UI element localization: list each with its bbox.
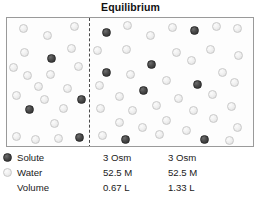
- right-solute-particle: [102, 68, 111, 77]
- right-water-particle: [95, 81, 104, 90]
- right-solute-particle: [190, 26, 199, 35]
- left-water-particle: [67, 44, 76, 53]
- right-solute-particle: [121, 135, 130, 144]
- figure-title: Equilibrium: [0, 1, 261, 13]
- right-water-particle: [182, 126, 191, 135]
- right-water-particle: [162, 116, 171, 125]
- left-solute-particle: [25, 105, 34, 114]
- right-water-particle: [206, 45, 215, 54]
- volume-left-value: 0.67 L: [103, 180, 130, 195]
- left-water-particle: [43, 31, 52, 40]
- left-solute-particle: [77, 95, 86, 104]
- left-water-particle: [46, 70, 55, 79]
- compartment-container: [6, 17, 254, 147]
- solute-left-value: 3 Osm: [103, 150, 131, 165]
- left-water-particle: [70, 22, 79, 31]
- left-water-particle: [20, 48, 29, 57]
- right-water-particle: [233, 24, 242, 33]
- right-water-particle: [96, 104, 105, 113]
- right-solute-particle: [139, 86, 148, 95]
- right-water-particle: [93, 46, 102, 55]
- right-water-particle: [138, 123, 147, 132]
- right-water-particle: [126, 70, 135, 79]
- right-water-particle: [128, 106, 137, 115]
- right-solute-particle: [147, 60, 156, 69]
- right-water-particle: [234, 51, 243, 60]
- legend-label-volume: Volume: [17, 180, 49, 195]
- legend-row-water: Water 52.5 M 52.5 M: [0, 165, 261, 180]
- legend-row-solute: Solute 3 Osm 3 Osm: [0, 150, 261, 165]
- left-water-particle: [50, 119, 59, 128]
- left-water-particle: [74, 62, 83, 71]
- legend-row-volume: Volume 0.67 L 1.33 L: [0, 180, 261, 195]
- right-solute-particle: [193, 80, 202, 89]
- right-water-particle: [174, 94, 183, 103]
- right-water-particle: [115, 92, 124, 101]
- right-water-particle: [218, 68, 227, 77]
- solute-right-value: 3 Osm: [168, 150, 196, 165]
- right-water-particle: [123, 21, 132, 30]
- volume-right-value: 1.33 L: [168, 180, 195, 195]
- right-water-particle: [227, 102, 236, 111]
- left-water-particle: [59, 104, 68, 113]
- solute-swatch-icon: [3, 153, 12, 162]
- right-water-particle: [230, 78, 239, 87]
- right-compartment: [90, 18, 253, 147]
- right-water-particle: [208, 90, 217, 99]
- left-water-particle: [54, 134, 63, 143]
- right-water-particle: [225, 136, 234, 145]
- legend: Solute 3 Osm 3 Osm Water 52.5 M 52.5 M V…: [0, 150, 261, 200]
- left-compartment: [7, 18, 89, 147]
- left-water-particle: [12, 91, 21, 100]
- right-water-particle: [162, 76, 171, 85]
- left-solute-particle: [47, 54, 56, 63]
- right-water-particle: [152, 101, 161, 110]
- right-water-particle: [115, 118, 124, 127]
- osmosis-equilibrium-figure: Equilibrium Solute 3 Osm 3 Osm Water 52.…: [0, 0, 261, 201]
- right-water-particle: [168, 23, 177, 32]
- right-water-particle: [98, 131, 107, 140]
- right-water-particle: [189, 106, 198, 115]
- left-water-particle: [34, 82, 43, 91]
- right-water-particle: [172, 48, 181, 57]
- semipermeable-membrane-divider: [89, 18, 90, 147]
- water-left-value: 52.5 M: [103, 165, 132, 180]
- left-water-particle: [40, 95, 49, 104]
- right-water-particle: [233, 123, 242, 132]
- left-water-particle: [23, 71, 32, 80]
- left-water-particle: [63, 84, 72, 93]
- right-water-particle: [187, 56, 196, 65]
- left-solute-particle: [75, 133, 84, 142]
- legend-label-water: Water: [17, 165, 42, 180]
- right-water-particle: [155, 130, 164, 139]
- left-water-particle: [19, 24, 28, 33]
- water-right-value: 52.5 M: [168, 165, 197, 180]
- right-solute-particle: [102, 28, 111, 37]
- right-water-particle: [212, 22, 221, 31]
- left-water-particle: [12, 132, 21, 141]
- legend-label-solute: Solute: [17, 150, 44, 165]
- left-water-particle: [9, 63, 18, 72]
- right-solute-particle: [200, 135, 209, 144]
- left-water-particle: [31, 135, 40, 144]
- right-water-particle: [122, 45, 131, 54]
- right-water-particle: [146, 31, 155, 40]
- water-swatch-icon: [3, 168, 12, 177]
- right-water-particle: [209, 114, 218, 123]
